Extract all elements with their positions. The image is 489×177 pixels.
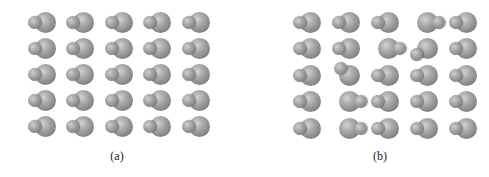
small-atom (410, 95, 423, 108)
small-atom (449, 42, 462, 55)
small-atom (332, 16, 345, 29)
small-atom (354, 95, 367, 108)
small-atom (293, 16, 306, 29)
small-atom (432, 16, 445, 29)
small-atom (371, 69, 384, 82)
small-atom (371, 95, 384, 108)
small-atom (449, 95, 462, 108)
small-atom (371, 16, 384, 29)
small-atom (354, 122, 367, 135)
panel-b (0, 0, 489, 177)
small-atom (393, 42, 406, 55)
small-atom (449, 69, 462, 82)
small-atom (334, 62, 347, 75)
small-atom (293, 42, 306, 55)
small-atom (449, 16, 462, 29)
small-atom (410, 48, 423, 61)
panel-b-label: (b) (373, 149, 387, 164)
small-atom (410, 69, 423, 82)
small-atom (410, 122, 423, 135)
small-atom (371, 122, 384, 135)
small-atom (293, 122, 306, 135)
small-atom (332, 42, 345, 55)
small-atom (449, 122, 462, 135)
small-atom (293, 69, 306, 82)
small-atom (293, 95, 306, 108)
